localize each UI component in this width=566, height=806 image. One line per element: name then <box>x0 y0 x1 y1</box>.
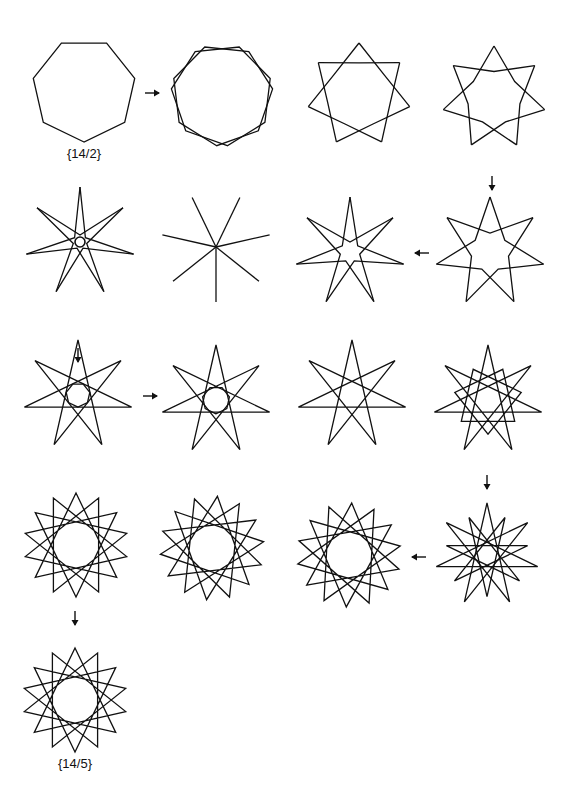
arrow-down-icon <box>489 176 496 191</box>
arrow-left-icon <box>411 554 426 561</box>
star-figure-s7-edge <box>350 197 404 264</box>
star-figure-s6-spoke <box>162 235 216 247</box>
star-figure-s17 <box>24 648 125 752</box>
star-figure-s15 <box>298 503 400 607</box>
star-figure-s9-core <box>66 384 90 407</box>
star-figure-s3-edge <box>308 107 381 142</box>
star-polygon-diagram <box>0 0 566 806</box>
star-figure-s8-edge <box>509 218 534 302</box>
star-figure-s5-edge <box>56 248 134 291</box>
star-figure-s5-hub <box>75 237 85 247</box>
star-figure-s6-spoke <box>173 247 216 281</box>
star-figure-s7-edge <box>326 261 404 302</box>
label-14-5: {14/5} <box>58 756 92 771</box>
star-figure-s6-spoke <box>216 197 240 247</box>
star-figure-s8-edge <box>447 218 472 302</box>
star-figure-s7-edge <box>296 197 350 264</box>
star-figure-s13 <box>25 493 126 597</box>
arrow-down-icon <box>72 611 79 626</box>
label-14-2: {14/2} <box>67 146 101 161</box>
star-figure-s3-edge <box>359 43 410 107</box>
star-figure-s3-edge <box>336 107 409 142</box>
star-figure-s16 <box>436 503 537 602</box>
star-figure-s4-edge <box>453 66 471 145</box>
star-figure-s11 <box>298 340 405 445</box>
star-figure-s6-spoke <box>216 247 259 281</box>
star-figure-s6-spoke <box>216 235 270 247</box>
star-figure-s4-edge <box>517 66 535 145</box>
star-figure-s10 <box>162 345 269 450</box>
star-figure-s5-edge <box>80 187 134 254</box>
star-figure-s10-core <box>203 388 230 414</box>
star-figure-s14 <box>160 496 263 599</box>
star-figure-s7-edge <box>307 218 393 242</box>
star-figure-s4-edge <box>494 46 545 110</box>
star-figure-s6-spoke <box>192 197 216 247</box>
star-figure-s8-edge <box>447 218 533 233</box>
star-figure-s5-edge <box>26 187 80 254</box>
star-figure-s4-edge <box>453 66 534 72</box>
star-figure-s4-edge <box>443 46 494 110</box>
star-figure-s16-inner <box>446 518 527 597</box>
star-figure-s8-edge <box>466 264 543 301</box>
star-figure-s1 <box>33 43 134 142</box>
star-figure-s7-edge <box>296 261 374 302</box>
arrow-right-icon <box>143 393 158 400</box>
star-figure-s8-edge <box>436 264 514 301</box>
arrow-right-icon <box>145 90 160 97</box>
arrow-down-icon <box>484 475 491 490</box>
star-figure-s5-edge <box>37 208 123 235</box>
star-figure-s3-edge <box>308 43 359 107</box>
star-figure-s5-edge <box>26 248 104 291</box>
star-figure-s12-inner <box>455 369 521 434</box>
arrow-left-icon <box>414 250 429 257</box>
